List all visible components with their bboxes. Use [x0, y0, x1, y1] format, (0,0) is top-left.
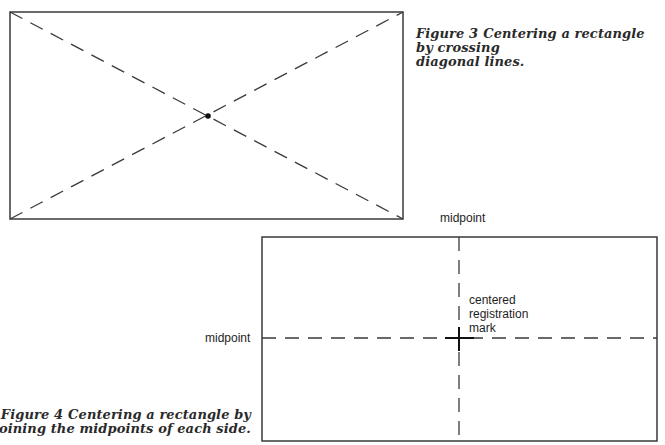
figure-4-caption-text: Centering a rectangle by — [68, 407, 251, 422]
figure-4-caption-number: Figure 4 — [1, 407, 63, 422]
figure-4-caption-line-2: joining the midpoints of each side. — [0, 422, 251, 436]
figure-4-caption-line-1: Figure 4Centering a rectangle by — [0, 408, 251, 422]
top-midpoint-label: midpoint — [440, 211, 485, 225]
figure-4-caption: Figure 4Centering a rectangle by joining… — [0, 408, 251, 436]
figure-3-diagram — [10, 12, 403, 219]
registration-mark-label-line-1: centered — [469, 293, 528, 307]
registration-mark-label: centered registration mark — [469, 293, 528, 335]
registration-mark-label-line-3: mark — [469, 321, 528, 335]
figure-3-center-dot — [205, 113, 211, 119]
figure-3-caption-number: Figure 3 — [416, 26, 478, 41]
registration-mark-label-line-2: registration — [469, 307, 528, 321]
left-midpoint-label: midpoint — [205, 331, 250, 345]
figure-3-caption-line-2: diagonal lines. — [416, 55, 665, 69]
figure-4-diagram — [262, 237, 657, 441]
figure-3-caption: Figure 3Centering a rectangle by crossin… — [416, 27, 665, 69]
figure-3-caption-line-1: Figure 3Centering a rectangle by crossin… — [416, 27, 665, 55]
